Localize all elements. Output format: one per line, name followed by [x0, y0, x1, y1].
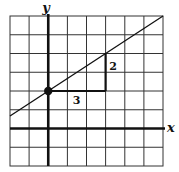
- y-intercept-point: [44, 87, 52, 95]
- coordinate-graph: y x 2 3: [0, 0, 179, 172]
- rise-label: 2: [109, 60, 117, 73]
- x-axis-label: x: [166, 120, 175, 135]
- run-label: 3: [73, 94, 81, 107]
- y-axis-label: y: [41, 0, 51, 15]
